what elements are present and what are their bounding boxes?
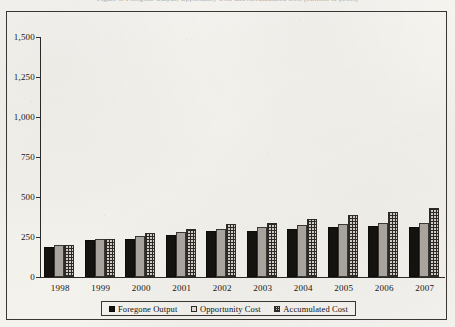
x-axis-tick-label: 2002	[202, 283, 242, 293]
light-gray-swatch	[191, 306, 197, 312]
x-axis-tick-label: 2007	[405, 283, 445, 293]
x-axis-tick-label: 2005	[324, 283, 364, 293]
legend-item: Opportunity Cost	[191, 304, 261, 314]
x-axis-tick-label: 2001	[162, 283, 202, 293]
bar-foregone-output	[287, 229, 297, 277]
clipped-figure-title: Figure 3. Foregone Output, Opportunity C…	[0, 0, 455, 11]
bar-accumulated-cost	[388, 212, 398, 277]
bar-foregone-output	[368, 226, 378, 277]
chart-plot-area: 02505007501,0001,2501,500 19981999200020…	[6, 11, 447, 320]
bar-opportunity-cost	[54, 245, 64, 277]
bar-group	[166, 37, 198, 277]
bar-group	[125, 37, 157, 277]
solid-black-swatch	[109, 306, 115, 312]
bar-accumulated-cost	[226, 224, 236, 277]
bar-group	[247, 37, 279, 277]
x-axis-tick-label: 1998	[40, 283, 80, 293]
bar-opportunity-cost	[419, 223, 429, 277]
bar-group	[85, 37, 117, 277]
x-axis-tick-label: 2006	[364, 283, 404, 293]
bar-accumulated-cost	[267, 223, 277, 277]
bar-opportunity-cost	[176, 232, 186, 277]
bar-group	[206, 37, 238, 277]
bar-foregone-output	[44, 247, 54, 277]
bar-opportunity-cost	[135, 236, 145, 277]
bar-accumulated-cost	[348, 215, 358, 277]
legend-item-label: Foregone Output	[118, 304, 177, 314]
bar-group	[287, 37, 319, 277]
bar-accumulated-cost	[429, 208, 439, 277]
chart-legend: Foregone OutputOpportunity CostAccumulat…	[101, 301, 356, 316]
bar-opportunity-cost	[338, 224, 348, 277]
bar-foregone-output	[166, 235, 176, 277]
checkered-swatch	[274, 306, 280, 312]
legend-item: Accumulated Cost	[274, 304, 348, 314]
x-axis-tick-label: 2003	[243, 283, 283, 293]
legend-item-label: Opportunity Cost	[200, 304, 261, 314]
x-axis-tick-label: 2000	[121, 283, 161, 293]
bar-accumulated-cost	[105, 239, 115, 277]
bar-foregone-output	[206, 231, 216, 277]
bar-group	[328, 37, 360, 277]
bar-opportunity-cost	[257, 227, 267, 277]
bar-opportunity-cost	[297, 225, 307, 277]
bar-opportunity-cost	[378, 223, 388, 277]
legend-item-label: Accumulated Cost	[283, 304, 348, 314]
bar-group	[409, 37, 441, 277]
bar-foregone-output	[247, 231, 257, 277]
legend-item: Foregone Output	[109, 304, 177, 314]
bar-opportunity-cost	[95, 239, 105, 277]
bar-accumulated-cost	[307, 219, 317, 277]
bar-accumulated-cost	[145, 233, 155, 277]
bar-group	[368, 37, 400, 277]
bar-accumulated-cost	[186, 229, 196, 277]
bar-accumulated-cost	[64, 245, 74, 277]
x-axis-tick-label: 1999	[81, 283, 121, 293]
bar-foregone-output	[328, 227, 338, 277]
bar-group	[44, 37, 76, 277]
x-axis-tick-label: 2004	[283, 283, 323, 293]
bar-groups	[6, 11, 447, 320]
clipped-title-text: Figure 3. Foregone Output, Opportunity C…	[0, 0, 455, 5]
bar-opportunity-cost	[216, 229, 226, 277]
bar-foregone-output	[409, 227, 419, 277]
bar-foregone-output	[85, 240, 95, 277]
bar-foregone-output	[125, 239, 135, 277]
